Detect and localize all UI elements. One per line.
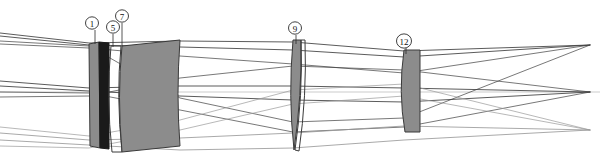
callout-number: 12	[400, 37, 409, 47]
callout-number: 5	[111, 23, 116, 33]
optical-diagram-canvas: 157912	[0, 0, 600, 161]
biconvex-middle-element	[291, 40, 301, 150]
callout-number: 7	[120, 12, 125, 22]
callout-number: 1	[90, 19, 95, 29]
lens-elements-layer	[89, 40, 420, 152]
dark-cemented-element	[99, 42, 109, 149]
large-thick-element	[120, 40, 181, 152]
rear-meniscus-element	[401, 50, 420, 132]
callout-number: 9	[293, 24, 298, 34]
callout-1: 1	[86, 17, 99, 44]
optical-ray-diagram: 157912	[0, 0, 600, 161]
front-meniscus-element	[89, 42, 100, 148]
